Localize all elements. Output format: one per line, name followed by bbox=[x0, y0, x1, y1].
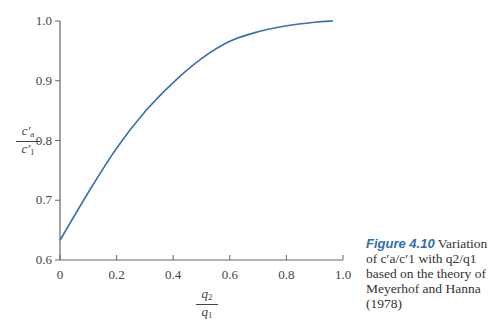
axes: 0.60.70.80.91.000.20.40.60.81.0 bbox=[36, 13, 351, 282]
y-tick-label: 1.0 bbox=[36, 13, 52, 28]
figure-caption: Figure 4.10 Variation of c′a/c′1 with q2… bbox=[366, 236, 494, 311]
y-tick-label: 0.6 bbox=[36, 252, 53, 267]
data-line bbox=[60, 21, 333, 240]
y-tick-label: 0.7 bbox=[36, 192, 53, 207]
y-tick-label: 0.9 bbox=[36, 73, 52, 88]
x-tick-label: 0.8 bbox=[278, 267, 294, 282]
x-axis-label: q2 q1 bbox=[196, 287, 218, 322]
x-tick-label: 1.0 bbox=[335, 267, 351, 282]
y-axis-label: c′a c′1 bbox=[16, 124, 40, 159]
x-tick-label: 0 bbox=[57, 267, 64, 282]
x-tick-label: 0.2 bbox=[108, 267, 124, 282]
x-tick-label: 0.4 bbox=[165, 267, 182, 282]
x-tick-label: 0.6 bbox=[222, 267, 239, 282]
figure-number: Figure 4.10 bbox=[366, 236, 435, 251]
